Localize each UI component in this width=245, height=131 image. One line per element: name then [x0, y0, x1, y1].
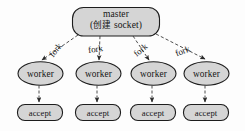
worker-node-shape-1 [18, 62, 63, 86]
worker-node-shape-2 [76, 62, 121, 86]
master-node-shape [73, 8, 160, 37]
worker-node-shape-4 [184, 62, 229, 86]
worker-node-shape-3 [131, 62, 176, 86]
fork-edge-1 [42, 35, 78, 60]
accept-node-shape-1 [18, 105, 63, 121]
fork-edge-4 [156, 34, 205, 59]
fork-edge-3 [133, 36, 149, 60]
accept-node-shape-3 [131, 105, 176, 121]
accept-node-shape-4 [184, 105, 229, 121]
diagram-canvas [0, 0, 245, 131]
accept-node-shape-2 [76, 105, 121, 121]
fork-model-diagram: master (创建 socket) fork fork fork fork w… [0, 0, 245, 131]
fork-edge-2 [99, 36, 100, 60]
